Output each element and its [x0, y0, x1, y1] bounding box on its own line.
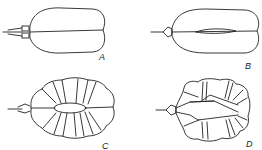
midline: [30, 30, 103, 32]
central-plate: [176, 101, 238, 120]
lower-bands: [43, 112, 101, 136]
lower-bands: [184, 116, 247, 139]
outer-contour: [176, 79, 250, 141]
panel-label-d: D: [246, 139, 253, 149]
midline: [172, 31, 257, 32]
node-lower: [22, 33, 29, 38]
panel-c: C: [8, 78, 114, 150]
midline: [31, 107, 113, 108]
figure-canvas: A B C D: [0, 0, 262, 150]
node-pair: [166, 105, 176, 115]
panel-a: A: [3, 8, 105, 62]
node-upper: [22, 26, 29, 31]
panel-d: D: [156, 79, 253, 149]
stem-strands: [18, 104, 30, 113]
panel-label-c: C: [102, 141, 109, 150]
central-opening: [54, 103, 86, 113]
node-pair: [163, 27, 172, 37]
panel-label-b: B: [245, 61, 251, 71]
panel-label-a: A: [98, 52, 105, 62]
upper-bands: [42, 79, 96, 104]
panel-b: B: [151, 9, 259, 71]
